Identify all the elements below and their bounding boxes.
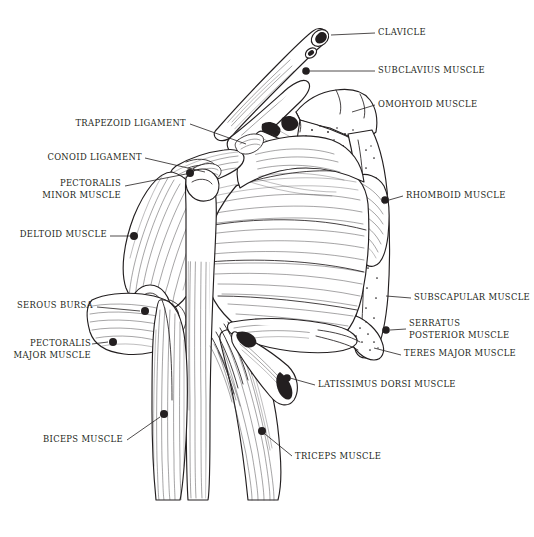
label-conoid-ligament: CONOID LIGAMENT: [0, 152, 142, 164]
label-latissimus-dorsi-muscle: LATISSIMUS DORSI MUSCLE: [318, 379, 456, 391]
label-pectoralis-minor-muscle: PECTORALIS MINOR MUSCLE: [0, 178, 121, 201]
label-rhomboid-muscle: RHOMBOID MUSCLE: [406, 190, 506, 202]
label-deltoid-muscle: DELTOID MUSCLE: [0, 229, 107, 241]
label-subscapular-muscle: SUBSCAPULAR MUSCLE: [414, 292, 530, 304]
label-subclavius-muscle: SUBCLAVIUS MUSCLE: [378, 65, 485, 77]
label-biceps-muscle: BICEPS MUSCLE: [0, 434, 123, 446]
label-omohyoid-muscle: OMOHYOID MUSCLE: [378, 99, 477, 111]
shoulder-anatomy-drawing: .ol{fill:none;stroke:#231f20;stroke-widt…: [0, 0, 534, 537]
label-clavicle: CLAVICLE: [378, 27, 426, 39]
label-teres-major-muscle: TERES MAJOR MUSCLE: [404, 348, 516, 360]
label-serratus-posterior-muscle: SERRATUS POSTERIOR MUSCLE: [409, 318, 509, 341]
label-pectoralis-major-muscle: PECTORALIS MAJOR MUSCLE: [0, 338, 91, 361]
label-serous-bursa: SEROUS BURSA: [0, 300, 93, 312]
label-triceps-muscle: TRICEPS MUSCLE: [295, 451, 381, 463]
anatomical-illustration: .ol{fill:none;stroke:#231f20;stroke-widt…: [0, 0, 534, 537]
biceps-muscle: [152, 300, 187, 500]
label-trapezoid-ligament: TRAPEZOID LIGAMENT: [26, 118, 186, 130]
